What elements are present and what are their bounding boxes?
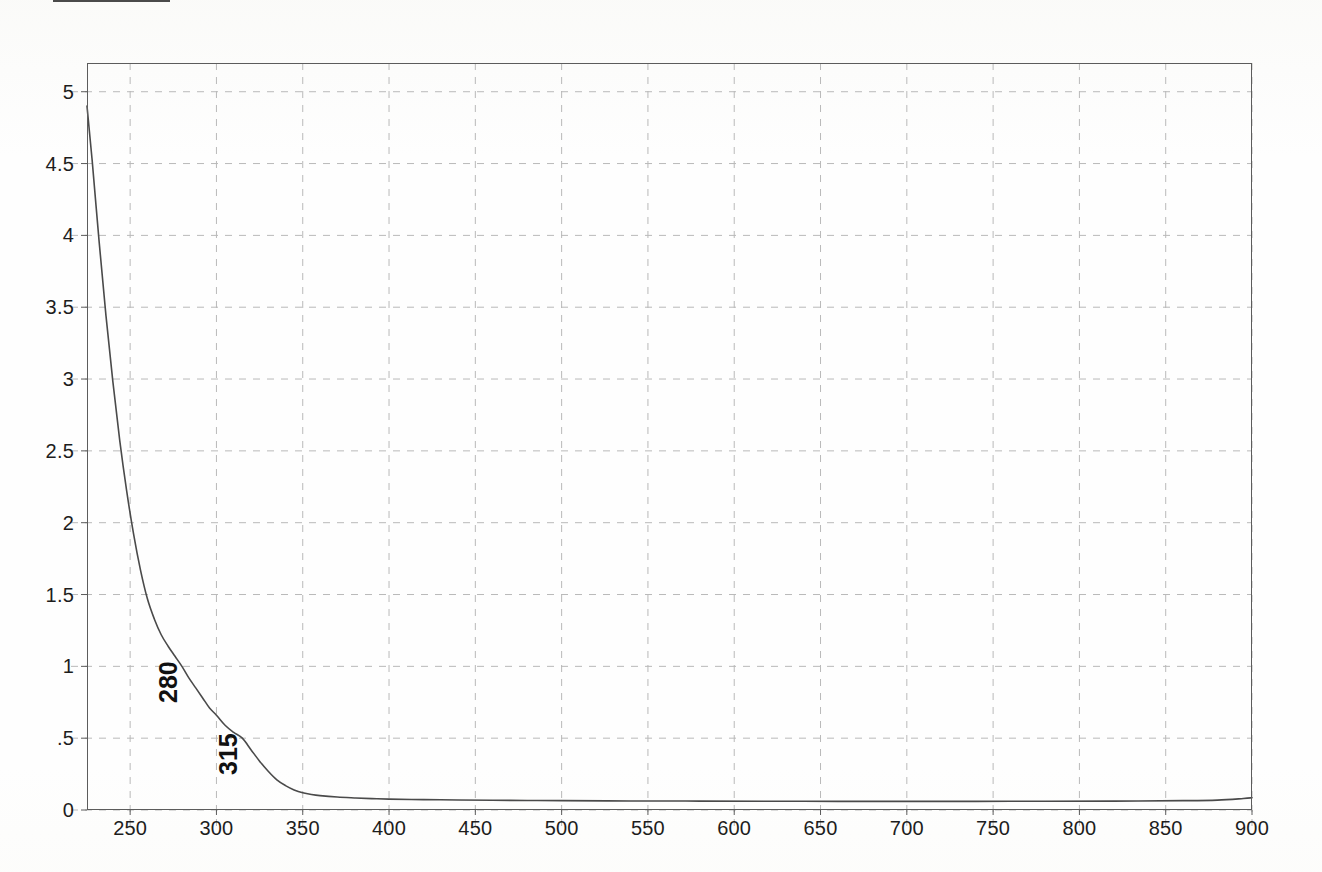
x-tick-label: 300: [199, 817, 233, 840]
x-tick-label: 550: [631, 817, 665, 840]
peak-label-280: 280: [154, 662, 183, 704]
x-tick-label: 350: [286, 817, 320, 840]
x-tick-label: 800: [1062, 817, 1096, 840]
y-tick-label: 4.5: [46, 152, 74, 175]
y-tick-label: 3: [63, 368, 74, 391]
x-tick-label: 600: [717, 817, 751, 840]
y-tick-label: 2: [63, 511, 74, 534]
x-tick-label: 500: [545, 817, 579, 840]
y-axis-tick-labels: 0.511.522.533.544.55: [0, 0, 74, 872]
y-tick-label: 2.5: [46, 439, 74, 462]
scanned-chart-page: 0.511.522.533.544.55 2503003504004505005…: [0, 0, 1322, 872]
x-tick-label: 650: [804, 817, 838, 840]
y-tick-label: 0: [63, 799, 74, 822]
x-tick-label: 250: [113, 817, 147, 840]
y-tick-label: 3.5: [46, 296, 74, 319]
y-tick-label: .5: [57, 727, 74, 750]
plot-frame: [87, 63, 1252, 810]
x-tick-label: 450: [458, 817, 492, 840]
x-tick-label: 900: [1235, 817, 1269, 840]
y-tick-label: 1.5: [46, 583, 74, 606]
spectrum-plot: 0.511.522.533.544.55 2503003504004505005…: [0, 0, 1322, 872]
y-tick-label: 1: [63, 655, 74, 678]
x-tick-label: 400: [372, 817, 406, 840]
y-tick-label: 4: [63, 224, 74, 247]
x-axis-ticks: [130, 810, 1252, 815]
x-tick-label: 700: [890, 817, 924, 840]
peak-label-315: 315: [214, 733, 243, 775]
x-tick-label: 750: [976, 817, 1010, 840]
y-tick-label: 5: [63, 80, 74, 103]
x-tick-label: 850: [1149, 817, 1183, 840]
